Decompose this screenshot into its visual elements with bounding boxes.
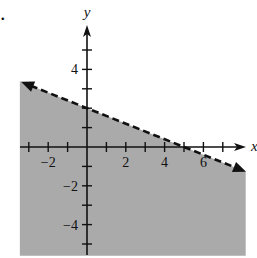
x-tick-label: 2 [122, 155, 129, 170]
y-tick-label: −2 [63, 179, 78, 194]
y-axis-label: y [82, 4, 91, 20]
right-arrowhead-icon [232, 162, 246, 172]
x-tick-label: 6 [200, 155, 207, 170]
x-axis-label: x [250, 138, 257, 154]
x-tick-label: −2 [41, 155, 56, 170]
x-tick-label: 4 [161, 155, 168, 170]
figure-marker: . [0, 0, 6, 25]
y-tick-label: −4 [63, 218, 78, 233]
inequality-graph: . −22464−2−4xy [0, 0, 257, 258]
plot-area: −22464−2−4xy [20, 4, 257, 256]
y-tick-label: 4 [71, 62, 78, 77]
